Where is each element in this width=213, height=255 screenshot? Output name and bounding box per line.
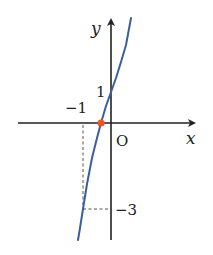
y-tick-neg3: −3 [115, 201, 137, 219]
x-tick-neg1: −1 [65, 99, 87, 117]
x-axis-label: x [186, 128, 196, 148]
x-intercept-point [97, 119, 104, 126]
y-tick-1: 1 [96, 83, 106, 101]
function-graph: y x O 1 −1 −3 [0, 0, 213, 255]
origin-label: O [116, 132, 128, 150]
y-axis-label: y [90, 18, 101, 38]
